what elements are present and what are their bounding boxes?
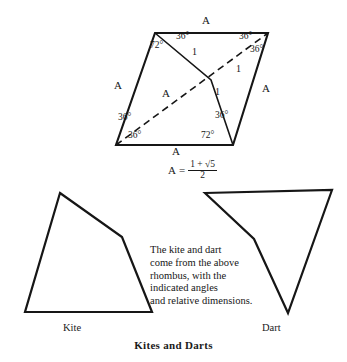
rhombus-side-label-bottom: A [172, 146, 180, 157]
formula-lhs: A [168, 165, 176, 176]
caption-line-5: and relative dimensions. [150, 295, 270, 308]
segment-label-one-right: 1 [236, 64, 241, 74]
rhombus-side-label-top: A [202, 15, 210, 26]
caption-line-3: rhombus, with the [150, 270, 270, 283]
kite-shape [25, 193, 152, 312]
formula-equals: = [179, 165, 185, 176]
rhombus-side-label-right: A [262, 83, 270, 94]
formula-fraction: 1 + √5 2 [188, 160, 217, 181]
kite-label: Kite [63, 322, 81, 333]
angle-label-top-left-36: 36° [176, 32, 189, 42]
caption-line-2: come from the above [150, 257, 270, 270]
golden-ratio-formula: A = 1 + √5 2 [168, 160, 217, 181]
rhombus-diagonal-label: A [162, 88, 170, 99]
angle-label-bottom-right-72: 72° [201, 131, 214, 141]
formula-numerator: 1 + √5 [188, 160, 217, 170]
caption-line-4: indicated angles [150, 282, 270, 295]
angle-label-bottom-right-36: 36° [215, 111, 228, 121]
segment-label-one-middle: 1 [215, 87, 220, 97]
caption-line-1: The kite and dart [150, 244, 270, 257]
kites-and-darts-figure: A A A A A 72° 36° 36° 36° 36° 36° 36° 72… [0, 0, 347, 362]
angle-label-top-right-36-lower: 36° [250, 45, 263, 55]
formula-denominator: 2 [200, 171, 205, 181]
rhombus-side-label-left: A [114, 80, 122, 91]
figure-title: Kites and Darts [0, 339, 347, 351]
angle-label-bottom-left-36-lower: 36° [128, 131, 141, 141]
angle-label-top-right-36-upper: 36° [239, 32, 252, 42]
angle-label-bottom-left-36-upper: 36° [118, 113, 131, 123]
dart-label: Dart [262, 322, 281, 333]
angle-label-top-left-72: 72° [150, 41, 163, 51]
segment-label-one-top: 1 [192, 47, 197, 57]
caption-text: The kite and dart come from the above rh… [150, 244, 270, 308]
